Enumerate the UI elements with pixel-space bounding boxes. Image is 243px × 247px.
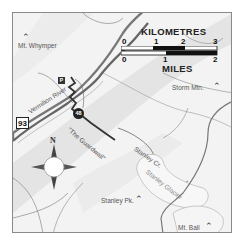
scale-km-tick-0: 0: [122, 37, 126, 46]
peak-label-mt-whymper: Mt. Whymper: [18, 42, 57, 49]
scale-mile-tick-0: 0: [122, 55, 126, 64]
scale-miles-title: MILES: [162, 63, 193, 74]
peak-icon-stanley-pk: ⌃: [135, 194, 143, 204]
map-frame: ⌃ Mt. Whymper Storm Mtn. ⌃ Stanley Pk. ⌃…: [12, 12, 232, 233]
peak-icon-storm-mtn: ⌃: [213, 81, 221, 91]
scale-km-title: KILOMETRES: [141, 26, 206, 37]
highway-93-shield: 93: [16, 117, 29, 129]
scale-mile-tick-2: 2: [213, 55, 217, 64]
peak-label-stanley-pk: Stanley Pk.: [101, 197, 134, 204]
compass-rose-icon: [31, 144, 77, 190]
scale-km-tick-3: 3: [213, 37, 217, 46]
peak-label-storm-mtn: Storm Mtn.: [172, 84, 204, 91]
peak-label-mt-ball: Mt. Ball: [178, 224, 200, 231]
scale-km-tick-1: 1: [154, 37, 158, 46]
trail-marker-48: 48: [73, 108, 84, 119]
peak-icon-mt-ball: ⌃: [205, 221, 213, 231]
scale-bar: [121, 46, 221, 56]
peak-icon-mt-whymper: ⌃: [22, 32, 30, 42]
scale-km-tick-2: 2: [181, 37, 185, 46]
parking-icon: P: [58, 77, 65, 84]
